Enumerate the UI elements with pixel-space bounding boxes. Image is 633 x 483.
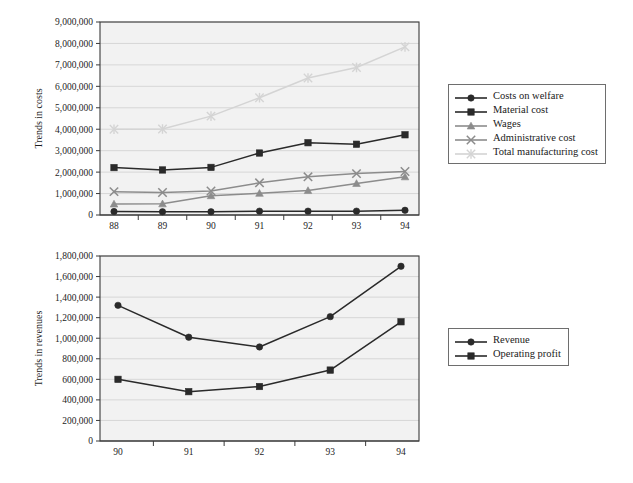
- x-tick-label: 88: [109, 221, 119, 231]
- x-tick-label: 89: [158, 221, 168, 231]
- x-tick-label: 94: [396, 447, 406, 457]
- legend-marker-icon: [454, 146, 488, 158]
- legend-marker-icon: [454, 118, 488, 130]
- y-tick-label: 800,000: [62, 354, 93, 364]
- legend-marker-icon: [454, 334, 488, 346]
- legend-costs: Costs on welfareMaterial costWagesAdmini…: [448, 84, 606, 164]
- y-tick-label: 2,000,000: [55, 168, 93, 178]
- figure-root: 01,000,0002,000,0003,000,0004,000,0005,0…: [0, 0, 633, 483]
- y-tick-label: 1,400,000: [55, 293, 93, 303]
- y-tick-label: 0: [88, 436, 93, 446]
- legend-item-label: Wages: [493, 118, 521, 130]
- y-tick-label: 5,000,000: [55, 103, 93, 113]
- y-tick-label: 400,000: [62, 395, 93, 405]
- legend-item-label: Revenue: [493, 334, 530, 346]
- y-tick-label: 3,000,000: [55, 146, 93, 156]
- legend-item[interactable]: Operating profit: [454, 347, 561, 361]
- y-axis-title: Trends in costs: [33, 88, 44, 148]
- y-tick-label: 1,200,000: [55, 313, 93, 323]
- x-tick-label: 93: [326, 447, 336, 457]
- y-axis-title: Trends in revenues: [33, 311, 44, 387]
- y-tick-label: 1,000,000: [55, 334, 93, 344]
- y-tick-label: 1,600,000: [55, 272, 93, 282]
- legend-item[interactable]: Wages: [454, 117, 598, 131]
- legend-item[interactable]: Administrative cost: [454, 131, 598, 145]
- legend-marker-icon: [454, 90, 488, 102]
- legend-marker-icon: [454, 132, 488, 144]
- y-tick-label: 0: [88, 210, 93, 220]
- x-tick-label: 91: [255, 221, 265, 231]
- legend-item[interactable]: Costs on welfare: [454, 89, 598, 103]
- x-tick-label: 92: [303, 221, 313, 231]
- legend-item-label: Total manufacturing cost: [493, 146, 598, 158]
- legend-item[interactable]: Revenue: [454, 333, 561, 347]
- y-tick-label: 6,000,000: [55, 82, 93, 92]
- x-tick-label: 94: [400, 221, 410, 231]
- x-tick-label: 91: [184, 447, 194, 457]
- y-tick-label: 600,000: [62, 375, 93, 385]
- y-tick-label: 9,000,000: [55, 17, 93, 27]
- legend-marker-icon: [454, 104, 488, 116]
- y-tick-label: 7,000,000: [55, 60, 93, 70]
- legend-item-label: Administrative cost: [493, 132, 576, 144]
- x-tick-label: 90: [206, 221, 216, 231]
- x-tick-label: 93: [352, 221, 362, 231]
- legend-marker-icon: [454, 348, 488, 360]
- legend-revenues: RevenueOperating profit: [448, 328, 569, 366]
- y-tick-label: 200,000: [62, 416, 93, 426]
- y-tick-label: 1,800,000: [55, 251, 93, 261]
- legend-item-label: Operating profit: [493, 348, 561, 360]
- legend-item-label: Material cost: [493, 104, 548, 116]
- y-tick-label: 1,000,000: [55, 189, 93, 199]
- legend-item[interactable]: Material cost: [454, 103, 598, 117]
- legend-item-label: Costs on welfare: [493, 90, 564, 102]
- chart-trends-in-revenues: 0200,000400,000600,000800,0001,000,0001,…: [0, 240, 633, 483]
- chart-trends-in-costs: 01,000,0002,000,0003,000,0004,000,0005,0…: [0, 0, 633, 240]
- x-tick-label: 92: [255, 447, 265, 457]
- y-tick-label: 8,000,000: [55, 39, 93, 49]
- x-tick-label: 90: [113, 447, 123, 457]
- legend-item[interactable]: Total manufacturing cost: [454, 145, 598, 159]
- y-tick-label: 4,000,000: [55, 125, 93, 135]
